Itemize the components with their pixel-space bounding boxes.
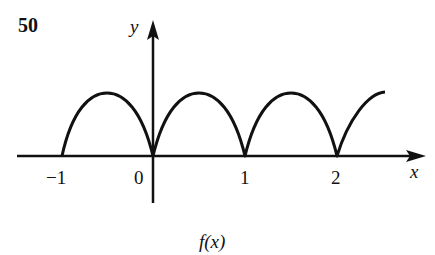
function-curve [62,92,385,156]
tick-label-neg1: −1 [46,167,66,188]
graph-caption: f(x) [199,231,225,253]
y-axis-label: y [128,16,139,37]
tick-label-2: 2 [331,167,341,188]
function-graph: y x −1 0 1 2 f(x) [0,0,435,255]
tick-label-1: 1 [240,167,250,188]
tick-label-0: 0 [134,167,144,188]
x-axis-label: x [409,161,419,182]
